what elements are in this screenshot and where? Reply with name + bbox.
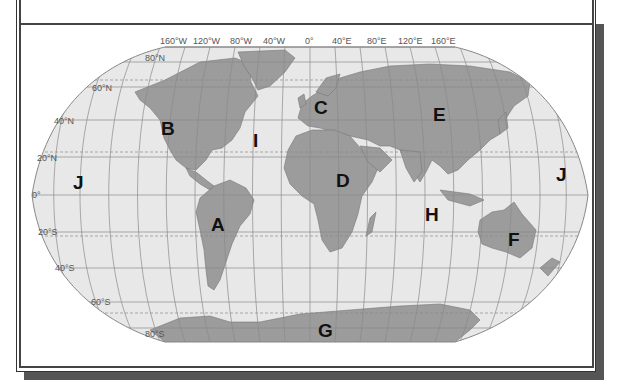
svg-text:80°N: 80°N: [145, 53, 165, 63]
label-h: H: [425, 204, 439, 225]
label-c: C: [314, 97, 328, 118]
label-b: B: [161, 118, 175, 139]
world-map: 160°W 120°W 80°W 40°W 0° 40°E 80°E 120°E…: [0, 0, 618, 384]
label-i: I: [253, 130, 258, 151]
label-f: F: [508, 229, 520, 250]
label-g: G: [318, 320, 333, 341]
svg-text:40°E: 40°E: [332, 36, 352, 46]
svg-text:160°E: 160°E: [431, 36, 456, 46]
label-e: E: [433, 104, 446, 125]
svg-text:80°W: 80°W: [230, 36, 253, 46]
svg-text:20°S: 20°S: [38, 227, 58, 237]
svg-text:0°: 0°: [305, 36, 314, 46]
svg-text:40°S: 40°S: [55, 263, 75, 273]
label-j-east: J: [556, 164, 567, 185]
label-j-west: J: [73, 172, 84, 193]
svg-text:40°N: 40°N: [54, 116, 74, 126]
svg-text:80°E: 80°E: [367, 36, 387, 46]
svg-text:40°W: 40°W: [263, 36, 286, 46]
svg-text:20°N: 20°N: [37, 153, 57, 163]
svg-text:120°E: 120°E: [398, 36, 423, 46]
longitude-labels: 160°W 120°W 80°W 40°W 0° 40°E 80°E 120°E…: [160, 36, 456, 46]
svg-text:0°: 0°: [32, 190, 41, 200]
label-a: A: [211, 214, 225, 235]
svg-text:120°W: 120°W: [193, 36, 221, 46]
svg-text:60°S: 60°S: [91, 297, 111, 307]
label-d: D: [336, 170, 350, 191]
svg-text:80°S: 80°S: [145, 329, 165, 339]
svg-text:60°N: 60°N: [92, 83, 112, 93]
svg-text:160°W: 160°W: [160, 36, 188, 46]
